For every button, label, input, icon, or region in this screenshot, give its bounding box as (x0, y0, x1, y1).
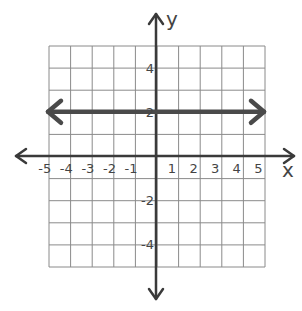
x-tick-label: 3 (211, 161, 219, 176)
x-tick-label: -5 (38, 161, 51, 176)
y-axis-label: y (166, 7, 178, 31)
x-tick-label: 2 (189, 161, 197, 176)
x-tick-label: -2 (103, 161, 116, 176)
x-axis-label: x (282, 158, 294, 182)
y-tick-label: 2 (146, 105, 154, 120)
x-tick-labels: -5-4-3-2-112345 (38, 161, 262, 176)
coordinate-plane: y x -5-4-3-2-112345 42-2-4 (0, 0, 302, 311)
x-tick-label: -1 (125, 161, 138, 176)
y-tick-label: 4 (146, 61, 154, 76)
x-tick-label: 5 (254, 161, 262, 176)
x-tick-label: 1 (168, 161, 176, 176)
x-tick-label: -3 (81, 161, 94, 176)
y-tick-label: -2 (141, 193, 154, 208)
y-tick-label: -4 (141, 237, 154, 252)
x-tick-label: -4 (60, 161, 73, 176)
x-tick-label: 4 (233, 161, 241, 176)
